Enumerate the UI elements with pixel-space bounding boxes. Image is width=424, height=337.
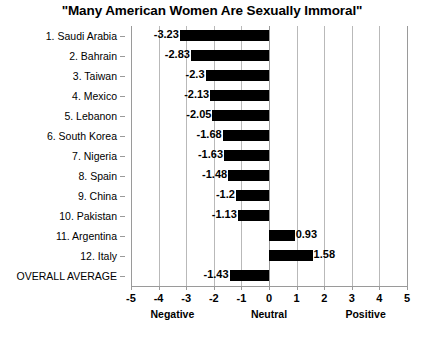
bar-value-label: -3.23: [154, 28, 179, 41]
category-tick: [120, 156, 125, 157]
axis-annotation-negative: Negative: [132, 308, 212, 321]
bar-value-label: -1.48: [202, 168, 227, 181]
bar: [236, 190, 269, 201]
category-label: 2. Bahrain: [69, 49, 117, 63]
chart-container: "Many American Women Are Sexually Immora…: [0, 0, 424, 337]
x-tick-4: [379, 286, 380, 290]
x-tick-label: -2: [202, 292, 226, 305]
x-tick-label: -3: [174, 292, 198, 305]
bar: [206, 70, 269, 81]
x-tick-1: [297, 286, 298, 290]
category-tick: [120, 136, 125, 137]
bar-row: -2.3: [131, 66, 407, 86]
category-label: 12. Italy: [80, 249, 117, 263]
category-tick: [120, 36, 125, 37]
category-tick: [120, 176, 125, 177]
category-label: 10. Pakistan: [59, 209, 117, 223]
bar-value-label: -2.83: [165, 48, 190, 61]
x-tick--2: [214, 286, 215, 290]
x-tick-label: 4: [367, 292, 391, 305]
category-label: 11. Argentina: [56, 229, 117, 243]
axis-annotation-neutral: Neutral: [229, 308, 309, 321]
bar-row: -1.13: [131, 206, 407, 226]
category-tick: [120, 216, 125, 217]
category-tick: [120, 76, 125, 77]
bar-value-label: -1.13: [212, 208, 237, 221]
bar-row: -2.05: [131, 106, 407, 126]
bar-row: -1.68: [131, 126, 407, 146]
bar-value-label: -1.63: [198, 148, 223, 161]
category-label: 6. South Korea: [47, 129, 117, 143]
bar: [269, 250, 313, 261]
x-tick--1: [241, 286, 242, 290]
bar-value-label: -2.05: [186, 108, 211, 121]
gridline-5: [407, 26, 408, 286]
category-axis: 1. Saudi Arabia2. Bahrain3. Taiwan4. Mex…: [0, 26, 125, 286]
bar-value-label: -2.13: [184, 88, 209, 101]
bar-rows: -3.23-2.83-2.3-2.13-2.05-1.68-1.63-1.48-…: [131, 26, 407, 286]
bar: [191, 50, 269, 61]
x-tick-label: -5: [119, 292, 143, 305]
x-tick--4: [159, 286, 160, 290]
bar-value-label: -1.43: [203, 268, 228, 281]
x-tick--3: [186, 286, 187, 290]
x-tick--5: [131, 286, 132, 290]
x-tick-2: [324, 286, 325, 290]
bar-row: -3.23: [131, 26, 407, 46]
category-tick: [120, 96, 125, 97]
category-tick: [120, 196, 125, 197]
bar-value-label: -1.68: [197, 128, 222, 141]
bar-value-label: 0.93: [296, 228, 317, 241]
bar: [238, 210, 269, 221]
bar-row: -1.63: [131, 146, 407, 166]
x-tick-label: -4: [147, 292, 171, 305]
x-tick-label: 3: [340, 292, 364, 305]
bar: [210, 90, 269, 101]
category-label: 8. Spain: [78, 169, 117, 183]
x-tick-label: -1: [229, 292, 253, 305]
x-tick-label: 1: [285, 292, 309, 305]
bar-row: -2.83: [131, 46, 407, 66]
category-label: OVERALL AVERAGE: [17, 269, 117, 283]
bar-row: -1.43: [131, 266, 407, 286]
axis-annotation-positive: Positive: [326, 308, 406, 321]
category-tick: [120, 256, 125, 257]
bar-row: 0.93: [131, 226, 407, 246]
bar: [223, 130, 269, 141]
bar-value-label: -2.3: [186, 68, 205, 81]
category-label: 5. Lebanon: [64, 109, 117, 123]
bar: [224, 150, 269, 161]
bar: [180, 30, 269, 41]
x-tick-3: [352, 286, 353, 290]
category-label: 7. Nigeria: [72, 149, 117, 163]
bar-row: -1.2: [131, 186, 407, 206]
category-tick: [120, 56, 125, 57]
category-label: 1. Saudi Arabia: [46, 29, 117, 43]
category-tick: [120, 236, 125, 237]
x-tick-5: [407, 286, 408, 290]
category-tick: [120, 276, 125, 277]
bar: [212, 110, 269, 121]
category-tick: [120, 116, 125, 117]
category-label: 3. Taiwan: [73, 69, 117, 83]
bar: [228, 170, 269, 181]
category-label: 4. Mexico: [72, 89, 117, 103]
plot-area: -3.23-2.83-2.3-2.13-2.05-1.68-1.63-1.48-…: [131, 26, 407, 287]
bar-row: -1.48: [131, 166, 407, 186]
bar-row: 1.58: [131, 246, 407, 266]
bar-row: -2.13: [131, 86, 407, 106]
chart-title: "Many American Women Are Sexually Immora…: [0, 3, 424, 18]
x-tick-label: 2: [312, 292, 336, 305]
bar: [230, 270, 269, 281]
bar: [269, 230, 295, 241]
x-tick-0: [269, 286, 270, 290]
x-tick-label: 0: [257, 292, 281, 305]
bar-value-label: -1.2: [216, 188, 235, 201]
bar-value-label: 1.58: [314, 248, 335, 261]
category-label: 9. China: [78, 189, 117, 203]
x-tick-label: 5: [395, 292, 419, 305]
